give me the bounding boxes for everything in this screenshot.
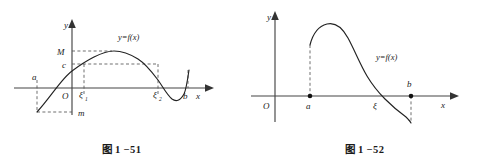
label-xi1-subscript: 1: [85, 96, 88, 102]
label-a: a: [32, 72, 37, 82]
figure-1-52-caption: 图 1 −52: [243, 141, 486, 156]
figure-1-51: y x O M c m a b ξ 1 ξ 2 y=f(x) 图 1 −51: [0, 0, 243, 162]
y-axis-label: y: [266, 12, 271, 22]
label-xi2-subscript: 2: [159, 96, 162, 102]
y-axis-arrow-icon: [271, 11, 279, 20]
label-xi2: ξ: [153, 90, 157, 100]
label-m: m: [78, 108, 85, 118]
curve-f-of-x: [37, 51, 189, 112]
label-xi1: ξ: [79, 90, 83, 100]
label-M: M: [56, 47, 65, 57]
figure-sheet: y x O M c m a b ξ 1 ξ 2 y=f(x) 图 1 −51: [0, 0, 486, 162]
point-dot-b: [409, 94, 414, 99]
label-b: b: [407, 79, 412, 89]
x-axis-label: x: [195, 91, 200, 101]
figure-1-52-canvas: y x O a b ξ y=f(x): [243, 0, 486, 130]
curve-label-f-of-x: y=f(x): [117, 32, 139, 42]
figure-1-51-caption: 图 1 −51: [0, 141, 243, 156]
label-c: c: [62, 60, 66, 70]
y-axis-label: y: [63, 20, 68, 30]
label-a: a: [306, 101, 311, 111]
figure-1-52: y x O a b ξ y=f(x) 图 1 −52: [243, 0, 486, 162]
curve-label-f-of-x: y=f(x): [375, 52, 397, 62]
x-axis-arrow-icon: [450, 92, 459, 100]
label-b: b: [183, 91, 188, 101]
x-axis-arrow-icon: [205, 84, 214, 92]
origin-label: O: [62, 91, 69, 101]
point-dot-a: [308, 94, 313, 99]
y-axis-arrow-icon: [68, 19, 76, 28]
x-axis-label: x: [440, 100, 445, 110]
label-xi: ξ: [373, 101, 377, 111]
origin-label: O: [263, 101, 270, 111]
figure-1-51-canvas: y x O M c m a b ξ 1 ξ 2 y=f(x): [0, 0, 243, 130]
curve-f-of-x: [310, 24, 411, 123]
